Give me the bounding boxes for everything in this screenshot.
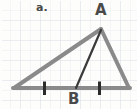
triangle-drawing [0,0,137,109]
geometry-figure: a. A B [0,0,137,109]
triangle-outline [13,29,130,88]
triangle-side-right [101,29,129,88]
